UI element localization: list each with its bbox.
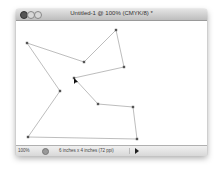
anchor-point[interactable]: [132, 106, 134, 108]
anchor-point[interactable]: [123, 66, 125, 68]
title-bar[interactable]: Untitled-1 @ 100% (CMYK/8) *: [16, 9, 207, 21]
document-window: Untitled-1 @ 100% (CMYK/8) * 100% 6 inch…: [16, 9, 207, 155]
window-title: Untitled-1 @ 100% (CMYK/8) *: [16, 10, 207, 16]
document-info: 6 inches x 4 inches (72 ppi): [59, 148, 130, 154]
status-menu-arrow-icon[interactable]: [135, 148, 139, 154]
anchor-point[interactable]: [136, 138, 138, 140]
zoom-level-field[interactable]: 100%: [18, 148, 36, 154]
path-shape[interactable]: [16, 21, 207, 145]
anchor-point[interactable]: [59, 90, 61, 92]
document-canvas[interactable]: [16, 21, 207, 145]
anchor-point[interactable]: [26, 42, 28, 44]
status-bar: 100% 6 inches x 4 inches (72 ppi): [16, 145, 207, 156]
anchor-point[interactable]: [83, 61, 85, 63]
direct-selection-cursor-icon: [74, 78, 78, 84]
anchor-point[interactable]: [115, 29, 117, 31]
path-outline[interactable]: [27, 30, 137, 139]
anchor-point[interactable]: [97, 103, 99, 105]
status-icon[interactable]: [42, 148, 49, 155]
anchor-point[interactable]: [27, 136, 29, 138]
